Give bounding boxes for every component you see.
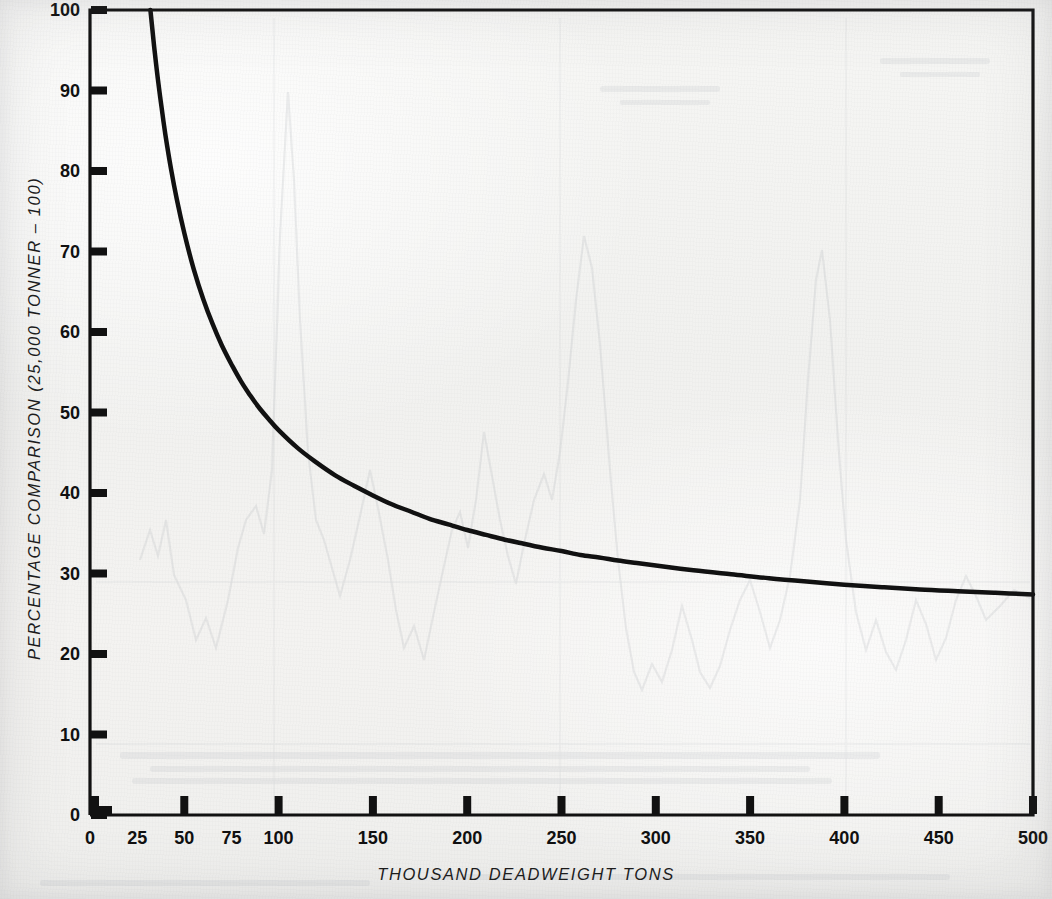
origin-corner-mark: [90, 796, 112, 815]
data-curve-percentage-comparison: [150, 10, 1033, 594]
x-tick-label-400: 400: [804, 829, 884, 847]
y-tick-label-10: 10: [20, 726, 80, 744]
x-tick-label-250: 250: [522, 829, 602, 847]
y-tick-label-90: 90: [20, 82, 80, 100]
x-tick-label-500: 500: [993, 829, 1052, 847]
x-tick-label-350: 350: [710, 829, 790, 847]
x-axis-title: THOUSAND DEADWEIGHT TONS: [0, 866, 1052, 883]
x-tick-label-450: 450: [899, 829, 979, 847]
y-tick-label-0: 0: [20, 806, 80, 824]
plot-frame: [90, 10, 1033, 815]
x-tick-label-150: 150: [333, 829, 413, 847]
x-tick-label-100: 100: [239, 829, 319, 847]
y-axis-tick-marks: [91, 10, 107, 815]
x-axis-tick-marks: [184, 796, 1033, 814]
y-tick-label-100: 100: [20, 1, 80, 19]
x-tick-label-300: 300: [616, 829, 696, 847]
chart-plot-area: [0, 0, 1052, 899]
y-axis-title: PERCENTAGE COMPARISON (25,000 TONNER – 1…: [26, 177, 43, 660]
x-tick-label-200: 200: [427, 829, 507, 847]
